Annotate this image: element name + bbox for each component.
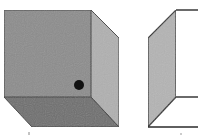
- solid-cube: [4, 10, 119, 127]
- open-box: [148, 10, 198, 127]
- box-left-face: [148, 10, 176, 127]
- dot-marker: [74, 80, 84, 90]
- cube-diagram: [0, 0, 198, 139]
